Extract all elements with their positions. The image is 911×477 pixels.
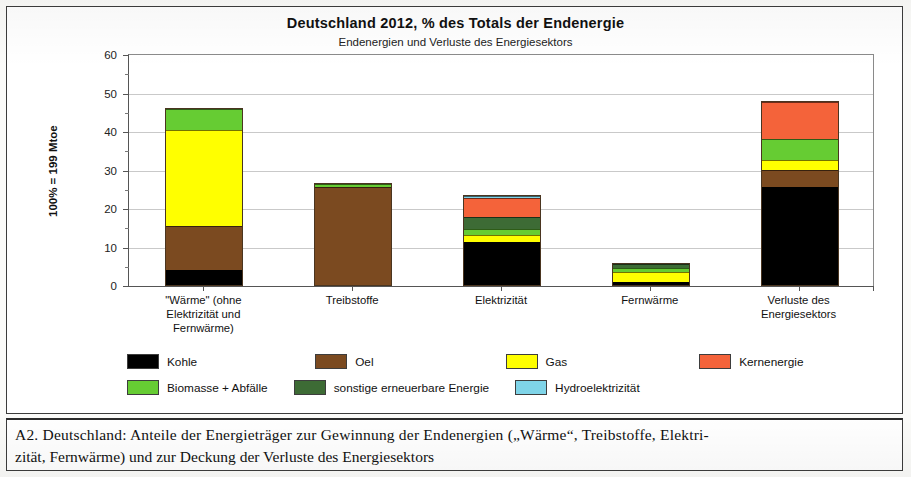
- legend-label: Kohle: [167, 355, 197, 369]
- legend-swatch: [699, 354, 731, 369]
- legend-item[interactable]: sonstige erneuerbare Energie: [294, 380, 489, 395]
- caption-line-2: zität, Fernwärme) und zur Deckung der Ve…: [15, 446, 894, 468]
- figure-page: Deutschland 2012, % des Totals der Enden…: [0, 0, 911, 477]
- x-axis-label-1: "Wärme" (ohneElektrizität undFernwärme): [129, 293, 278, 335]
- bar-segment: [166, 109, 242, 130]
- legend-label: Gas: [546, 355, 568, 369]
- bar-segment: [464, 196, 540, 198]
- bar-segment: [464, 217, 540, 229]
- bar-3: [463, 195, 541, 286]
- legend-item[interactable]: Kernenergie: [699, 354, 803, 369]
- y-tick-minor: [125, 74, 129, 75]
- bar-segment: [464, 198, 540, 217]
- bar-segment: [613, 272, 689, 282]
- legend-row-secondary: Biomasse + Abfällesonstige erneuerbare E…: [127, 380, 887, 395]
- y-tick-label: 20: [85, 203, 117, 215]
- y-tick-label: 0: [85, 280, 117, 292]
- chart-title: Deutschland 2012, % des Totals der Enden…: [7, 15, 904, 31]
- bar-segment: [762, 139, 838, 160]
- bar-segment: [762, 160, 838, 170]
- y-tick-label: 40: [85, 126, 117, 138]
- bar-1: [165, 108, 243, 286]
- legend-swatch: [127, 380, 159, 395]
- legend-label: Oel: [355, 355, 373, 369]
- bar-segment: [166, 270, 242, 285]
- x-label-line: Energiesektors: [724, 307, 873, 321]
- bar-segment: [762, 102, 838, 139]
- figure-caption: A2. Deutschland: Anteile der Energieträg…: [6, 418, 903, 471]
- chart-legend: KohleOelGasKernenergie Biomasse + Abfäll…: [127, 354, 887, 406]
- bar-segment: [464, 229, 540, 235]
- legend-item[interactable]: Hydroelektrizität: [515, 380, 640, 395]
- x-tick: [799, 286, 800, 291]
- x-label-line: Verluste des: [724, 293, 873, 307]
- bar-segment: [315, 184, 391, 187]
- y-gridline: [129, 94, 873, 95]
- y-tick-major: [123, 209, 129, 210]
- bar-segment: [613, 268, 689, 272]
- y-tick-label: 30: [85, 165, 117, 177]
- x-label-line: Fernwärme): [129, 321, 278, 335]
- x-axis-label-5: Verluste desEnergiesektors: [724, 293, 873, 321]
- legend-label: Hydroelektrizität: [555, 381, 640, 395]
- legend-item[interactable]: Biomasse + Abfälle: [127, 380, 268, 395]
- legend-label: Biomasse + Abfälle: [167, 381, 268, 395]
- y-tick-major: [123, 55, 129, 56]
- bar-segment: [464, 235, 540, 242]
- legend-swatch: [515, 380, 547, 395]
- y-tick-label: 50: [85, 88, 117, 100]
- legend-item[interactable]: Oel: [315, 354, 373, 369]
- legend-swatch: [294, 380, 326, 395]
- chart-frame: Deutschland 2012, % des Totals der Enden…: [6, 6, 903, 414]
- x-label-line: Treibstoffe: [278, 293, 427, 307]
- x-tick-end: [873, 286, 874, 291]
- y-tick-minor: [125, 113, 129, 114]
- bar-5: [761, 101, 839, 286]
- x-tick: [650, 286, 651, 291]
- y-tick-major: [123, 286, 129, 287]
- bar-segment: [613, 264, 689, 268]
- legend-label: sonstige erneuerbare Energie: [334, 381, 489, 395]
- y-tick-label: 60: [85, 49, 117, 61]
- caption-line-1: A2. Deutschland: Anteile der Energieträg…: [15, 424, 894, 446]
- legend-item[interactable]: Kohle: [127, 354, 197, 369]
- bar-segment: [464, 242, 540, 285]
- legend-swatch: [506, 354, 538, 369]
- bar-segment: [315, 187, 391, 285]
- bar-segment: [613, 282, 689, 285]
- y-tick-minor: [125, 190, 129, 191]
- x-tick: [352, 286, 353, 291]
- bar-segment: [762, 170, 838, 187]
- y-tick-major: [123, 248, 129, 249]
- x-axis-label-2: Treibstoffe: [278, 293, 427, 307]
- bar-2: [314, 183, 392, 286]
- y-tick-major: [123, 132, 129, 133]
- plot-area: 0102030405060"Wärme" (ohneElektrizität u…: [128, 54, 874, 287]
- x-label-line: Fernwärme: [575, 293, 724, 307]
- x-tick: [501, 286, 502, 291]
- x-axis-label-3: Elektrizität: [427, 293, 576, 307]
- y-tick-minor: [125, 151, 129, 152]
- x-label-line: Elektrizität und: [129, 307, 278, 321]
- x-label-line: "Wärme" (ohne: [129, 293, 278, 307]
- y-tick-minor: [125, 267, 129, 268]
- x-tick: [203, 286, 204, 291]
- bar-4: [612, 263, 690, 286]
- x-label-line: Elektrizität: [427, 293, 576, 307]
- legend-swatch: [315, 354, 347, 369]
- legend-label: Kernenergie: [739, 355, 803, 369]
- bar-segment: [166, 226, 242, 270]
- y-axis-title: 100% = 199 Mtoe: [47, 125, 59, 217]
- x-axis-label-4: Fernwärme: [575, 293, 724, 307]
- legend-row-primary: KohleOelGasKernenergie: [127, 354, 887, 369]
- y-tick-major: [123, 171, 129, 172]
- y-tick-label: 10: [85, 242, 117, 254]
- bar-segment: [762, 187, 838, 285]
- y-tick-major: [123, 94, 129, 95]
- legend-item[interactable]: Gas: [506, 354, 568, 369]
- y-tick-minor: [125, 228, 129, 229]
- legend-swatch: [127, 354, 159, 369]
- bar-segment: [166, 130, 242, 226]
- chart-subtitle: Endenergien und Verluste des Energiesekt…: [7, 36, 904, 48]
